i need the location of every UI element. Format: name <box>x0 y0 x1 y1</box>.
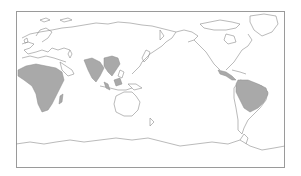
north-america-east <box>226 34 252 70</box>
caribbean <box>232 70 246 74</box>
caspian <box>68 50 72 58</box>
canada-arctic <box>200 20 240 30</box>
svalbard <box>40 18 50 22</box>
region-africa <box>18 64 64 112</box>
region-sumatra <box>104 82 110 90</box>
asia-east-coast <box>132 32 176 74</box>
alaska <box>176 30 198 42</box>
europe-coast <box>22 42 70 54</box>
antarctica <box>16 138 285 150</box>
new-guinea <box>128 84 142 90</box>
greenland <box>250 14 278 36</box>
uk-ireland <box>24 38 28 43</box>
world-map <box>0 0 301 176</box>
scandinavia-coast <box>36 28 52 42</box>
mediterranean <box>22 56 66 62</box>
australia <box>114 92 140 116</box>
region-central-america <box>218 70 236 80</box>
kamchatka <box>160 30 164 40</box>
region-borneo <box>114 78 122 86</box>
highlighted-regions <box>18 56 268 112</box>
region-madagascar <box>59 94 63 104</box>
hudson-bay <box>224 34 236 44</box>
philippines <box>118 70 124 78</box>
region-southeast-asia <box>104 56 120 76</box>
eurasia-north-coast <box>22 22 176 38</box>
indonesia <box>100 86 132 90</box>
japan <box>142 50 150 62</box>
region-south-america <box>236 80 268 112</box>
new-zealand <box>150 118 154 126</box>
region-india <box>84 58 104 82</box>
novaya-zemlya <box>60 18 72 22</box>
north-america-west <box>194 40 220 70</box>
